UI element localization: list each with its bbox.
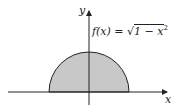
function-radicand: 1 − x (134, 24, 163, 38)
y-axis-label: y (79, 4, 85, 17)
semicircle-diagram (0, 0, 181, 109)
function-exponent: 2 (164, 24, 168, 32)
x-axis-label: x (165, 93, 171, 106)
function-label: f(x) = √1 − x2 (92, 24, 168, 38)
function-prefix: f(x) = (92, 25, 127, 38)
